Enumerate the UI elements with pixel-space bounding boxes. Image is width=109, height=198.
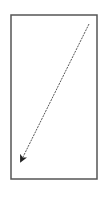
- diagonal-arrow: [21, 24, 89, 161]
- diagram-svg: [0, 0, 109, 198]
- diagram-canvas: [0, 0, 109, 198]
